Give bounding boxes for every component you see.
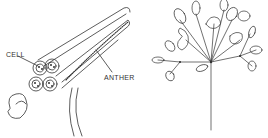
botanical-figure: CELL ANTHER xyxy=(0,0,268,138)
umbel-illustration xyxy=(0,0,268,138)
